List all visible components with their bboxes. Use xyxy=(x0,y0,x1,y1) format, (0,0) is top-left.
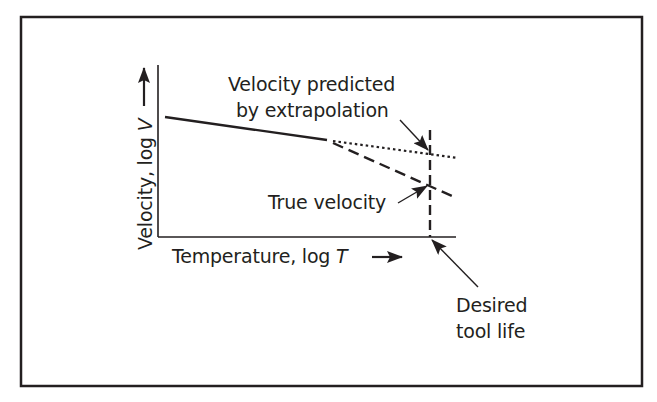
predicted-pointer-arrow-icon xyxy=(400,120,428,150)
y-axis-label: Velocity, log V xyxy=(134,118,157,250)
true-velocity-line xyxy=(333,143,452,196)
desired-pointer-arrow-icon xyxy=(432,240,478,287)
desired-label-line1: Desired xyxy=(456,294,527,317)
predicted-label-line1: Velocity predicted xyxy=(228,73,395,96)
true-velocity-label: True velocity xyxy=(268,191,386,214)
x-axis-label-text: Temperature, log xyxy=(172,245,330,267)
y-axis-var: V xyxy=(134,118,156,131)
desired-label-line2: tool life xyxy=(456,320,525,343)
y-axis-label-text: Velocity, log xyxy=(134,137,156,250)
x-axis-label: Temperature, log T xyxy=(172,245,347,268)
extrapolated-line xyxy=(333,141,458,158)
true-velocity-pointer-arrow-icon xyxy=(398,186,427,203)
x-axis-var: T xyxy=(336,245,347,267)
predicted-label-line2: by extrapolation xyxy=(236,99,389,122)
